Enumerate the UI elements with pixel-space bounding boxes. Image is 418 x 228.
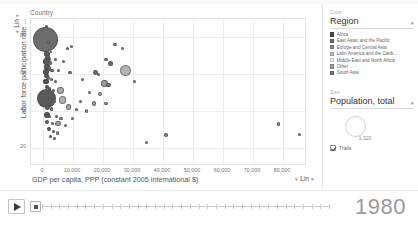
- legend-item-label: Africa: [337, 32, 349, 37]
- data-bubble[interactable]: [49, 98, 52, 101]
- data-bubble[interactable]: [43, 79, 48, 84]
- data-bubble[interactable]: [56, 131, 59, 134]
- data-bubble[interactable]: [88, 91, 91, 94]
- chevron-down-icon[interactable]: ▾: [411, 20, 414, 26]
- data-bubble[interactable]: [145, 141, 148, 144]
- data-bubble[interactable]: [75, 108, 78, 111]
- data-bubble[interactable]: [133, 80, 136, 83]
- data-bubble[interactable]: [79, 100, 82, 103]
- data-bubble[interactable]: [64, 124, 67, 127]
- data-bubble[interactable]: [106, 83, 110, 87]
- data-bubble[interactable]: [66, 47, 69, 50]
- data-bubble[interactable]: [47, 127, 51, 131]
- data-bubble[interactable]: [57, 87, 64, 94]
- data-bubble[interactable]: [104, 58, 108, 62]
- data-bubble[interactable]: [50, 69, 53, 72]
- y-axis-scale-control[interactable]: ▾Lin▾: [13, 4, 20, 44]
- timeline-slider-track[interactable]: [42, 206, 329, 207]
- legend-item-label: South Asia: [337, 70, 359, 75]
- color-encoding-group: Color Region ▾ AfricaEast Asian and the …: [330, 10, 414, 77]
- current-year-display: 1980: [355, 194, 406, 220]
- legend-item[interactable]: South Asia: [330, 70, 414, 75]
- timeline-tick: [303, 204, 304, 209]
- gridline-vertical: [193, 19, 194, 164]
- timeline-tick: [329, 204, 330, 209]
- color-field-value: Region: [330, 16, 359, 26]
- data-bubble[interactable]: [57, 69, 60, 72]
- data-bubble[interactable]: [108, 61, 113, 66]
- encoding-sidebar: Color Region ▾ AfricaEast Asian and the …: [322, 4, 418, 190]
- data-bubble[interactable]: [49, 135, 52, 138]
- timeline-tick: [320, 204, 321, 209]
- gridline-horizontal: [31, 111, 305, 112]
- legend-item[interactable]: Latin America and the Carib...: [330, 51, 414, 56]
- data-bubble[interactable]: [62, 60, 65, 63]
- data-bubble[interactable]: [33, 27, 58, 52]
- data-bubble[interactable]: [54, 80, 57, 83]
- timeline-tick: [190, 204, 191, 209]
- legend-item-label: Europe and Central Asia: [337, 45, 387, 50]
- x-axis-scale-caret-icon[interactable]: ▾: [311, 176, 314, 182]
- timeline-tick: [259, 204, 260, 209]
- region-legend: AfricaEast Asian and the PacificEurope a…: [330, 32, 414, 75]
- chevron-down-icon[interactable]: ▾: [411, 100, 414, 106]
- data-bubble[interactable]: [121, 47, 124, 50]
- trails-toggle[interactable]: Trails: [330, 145, 352, 151]
- timeline-tick: [42, 204, 43, 209]
- data-bubble[interactable]: [51, 122, 54, 125]
- data-bubble[interactable]: [68, 71, 71, 74]
- timeline-tick: [120, 204, 121, 209]
- data-bubble[interactable]: [92, 101, 96, 105]
- data-bubble[interactable]: [104, 102, 108, 106]
- chart-pane: Country Labor force participation rate .…: [0, 4, 322, 190]
- data-bubble[interactable]: [48, 115, 52, 119]
- trails-checkbox[interactable]: [330, 145, 336, 151]
- size-field-select[interactable]: Population, total ▾: [330, 96, 414, 109]
- timeline-tick: [242, 204, 243, 209]
- data-bubble[interactable]: [54, 58, 57, 61]
- data-bubble[interactable]: [59, 96, 67, 104]
- data-bubble[interactable]: [120, 65, 131, 76]
- size-group-caption: Size: [330, 90, 414, 95]
- play-button[interactable]: [8, 199, 25, 214]
- data-bubble[interactable]: [113, 43, 116, 46]
- timeline-slider-handle[interactable]: [30, 201, 41, 212]
- legend-item[interactable]: Europe and Central Asia: [330, 45, 414, 50]
- data-bubble[interactable]: [50, 78, 53, 81]
- legend-item[interactable]: Middle East and North Africa: [330, 58, 414, 63]
- data-bubble[interactable]: [53, 100, 56, 103]
- data-bubble[interactable]: [55, 121, 60, 126]
- data-bubble[interactable]: [59, 117, 62, 120]
- color-field-select[interactable]: Region ▾: [330, 16, 414, 29]
- data-bubble[interactable]: [71, 117, 74, 120]
- x-tick-label: 20,000: [94, 167, 111, 173]
- x-tick-label: 0: [41, 167, 44, 173]
- data-bubble[interactable]: [53, 137, 56, 140]
- x-axis-menu-caret-icon[interactable]: ▾: [295, 176, 298, 182]
- legend-item-label: Latin America and the Carib...: [337, 51, 398, 56]
- legend-item[interactable]: Africa: [330, 32, 414, 37]
- data-bubble[interactable]: [50, 107, 53, 110]
- data-bubble[interactable]: [66, 104, 72, 110]
- y-axis-menu-caret-icon[interactable]: ▾: [14, 30, 20, 33]
- y-axis-scale-label: Lin: [13, 19, 20, 28]
- legend-item[interactable]: Other: [330, 64, 414, 69]
- scatter-plot-area[interactable]: [30, 18, 306, 165]
- y-axis-scale-caret-icon[interactable]: ▾: [14, 14, 20, 17]
- timeline-tick: [181, 204, 182, 209]
- data-bubble[interactable]: [85, 109, 88, 112]
- x-axis-scale-control[interactable]: ▾Lin▾: [293, 175, 316, 182]
- timeline-tick: [216, 204, 217, 209]
- data-bubble[interactable]: [55, 115, 58, 118]
- legend-swatch-icon: [330, 32, 334, 36]
- data-bubble[interactable]: [98, 92, 102, 96]
- data-bubble[interactable]: [97, 73, 100, 76]
- data-bubble[interactable]: [45, 120, 49, 124]
- data-bubble[interactable]: [277, 122, 281, 126]
- legend-item[interactable]: East Asian and the Pacific: [330, 38, 414, 43]
- x-tick-label: 60,000: [214, 167, 231, 173]
- data-bubble[interactable]: [298, 133, 301, 136]
- data-bubble[interactable]: [164, 133, 168, 137]
- data-bubble[interactable]: [81, 78, 84, 81]
- data-bubble[interactable]: [52, 130, 55, 133]
